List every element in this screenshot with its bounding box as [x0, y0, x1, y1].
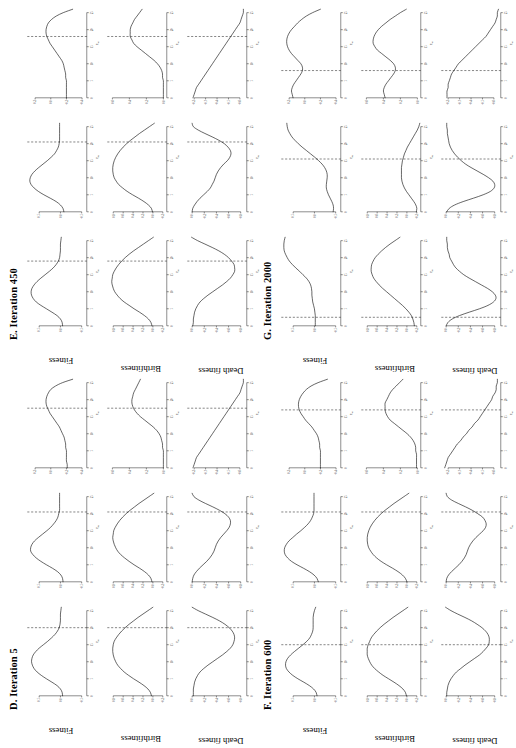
plot-cell-r1-c2: 0.50.0-0.50510152025z̄R2 — [276, 490, 354, 598]
svg-text:25: 25 — [90, 381, 94, 384]
svg-text:z̄R1: z̄R1 — [349, 268, 354, 273]
svg-text:-0.4: -0.4 — [80, 100, 84, 105]
svg-text:0.0: 0.0 — [151, 328, 155, 332]
svg-text:5: 5 — [504, 564, 508, 566]
svg-text:0: 0 — [504, 581, 508, 583]
plot-cell-r3-c3: -0.2-0.3-0.4-0.5-0.60510152025z̄N1 — [182, 6, 260, 114]
row-label-fitness: Fitness — [276, 348, 354, 374]
svg-text:0: 0 — [504, 325, 508, 327]
svg-text:20: 20 — [170, 626, 174, 629]
svg-text:-0.5: -0.5 — [481, 100, 485, 105]
svg-text:5: 5 — [90, 564, 94, 566]
svg-text:0.0: 0.0 — [58, 584, 62, 588]
plot-cell-r3-c1: 0.0-0.2-0.4-0.6-0.80510152025z̄R1 — [436, 604, 514, 712]
svg-text:15: 15 — [170, 415, 174, 418]
svg-text:20: 20 — [250, 398, 254, 401]
svg-text:15: 15 — [170, 643, 174, 646]
svg-text:0.6: 0.6 — [364, 100, 368, 104]
svg-text:25: 25 — [170, 381, 174, 384]
svg-text:20: 20 — [344, 512, 348, 515]
svg-text:z̄R1: z̄R1 — [349, 638, 354, 643]
svg-text:10: 10 — [424, 290, 428, 293]
svg-text:15: 15 — [250, 273, 254, 276]
svg-text:0.5: 0.5 — [37, 214, 41, 218]
svg-text:20: 20 — [170, 398, 174, 401]
svg-text:0.4: 0.4 — [127, 100, 131, 104]
svg-text:5: 5 — [344, 678, 348, 680]
row-label-birthfitness: Birthfitness — [102, 718, 180, 744]
svg-text:20: 20 — [344, 626, 348, 629]
svg-text:0.2: 0.2 — [141, 698, 145, 702]
svg-text:25: 25 — [344, 609, 348, 612]
svg-text:25: 25 — [90, 125, 94, 128]
svg-text:15: 15 — [250, 529, 254, 532]
svg-text:15: 15 — [424, 45, 428, 48]
svg-text:5: 5 — [170, 80, 174, 82]
plot-cell-r2-c3: 0.60.40.20.00510152025z̄N1 — [356, 376, 434, 484]
svg-text:-0.5: -0.5 — [80, 214, 84, 219]
plot-cell-r2-c3: 0.60.40.20.00510152025z̄N1 — [356, 6, 434, 114]
svg-text:0.2: 0.2 — [33, 100, 37, 104]
svg-text:-0.5: -0.5 — [227, 470, 231, 475]
row-label-fitness: Fitness — [22, 718, 100, 744]
svg-text:20: 20 — [344, 256, 348, 259]
panel-plot-grid: Fitness0.50.0-0.50510152025z̄R10.50.0-0.… — [276, 376, 514, 744]
svg-text:0: 0 — [424, 581, 428, 583]
svg-text:-0.2: -0.2 — [415, 584, 419, 589]
svg-text:0.5: 0.5 — [291, 328, 295, 332]
svg-text:-0.2: -0.2 — [415, 698, 419, 703]
svg-text:-0.3: -0.3 — [458, 100, 462, 105]
svg-text:0: 0 — [344, 325, 348, 327]
svg-text:0.4: 0.4 — [131, 328, 135, 332]
svg-text:0.0: 0.0 — [190, 328, 194, 332]
svg-text:25: 25 — [424, 381, 428, 384]
svg-text:z̄R1: z̄R1 — [509, 268, 514, 273]
svg-text:25: 25 — [170, 609, 174, 612]
svg-text:0.0: 0.0 — [58, 698, 62, 702]
svg-text:15: 15 — [250, 415, 254, 418]
svg-text:25: 25 — [344, 11, 348, 14]
svg-text:-0.4: -0.4 — [469, 100, 473, 105]
svg-text:15: 15 — [344, 529, 348, 532]
svg-text:5: 5 — [504, 194, 508, 196]
svg-text:20: 20 — [250, 256, 254, 259]
svg-text:0.8: 0.8 — [111, 698, 115, 702]
svg-text:20: 20 — [170, 142, 174, 145]
svg-text:z̄R2: z̄R2 — [95, 154, 100, 159]
svg-text:5: 5 — [250, 564, 254, 566]
svg-text:25: 25 — [344, 381, 348, 384]
svg-text:-0.2: -0.2 — [318, 100, 322, 105]
svg-text:5: 5 — [344, 450, 348, 452]
svg-text:z̄N1: z̄N1 — [175, 40, 180, 46]
svg-text:10: 10 — [90, 660, 94, 663]
svg-text:5: 5 — [90, 80, 94, 82]
svg-text:0: 0 — [344, 211, 348, 213]
svg-text:-0.6: -0.6 — [481, 214, 485, 219]
svg-text:0: 0 — [90, 325, 94, 327]
svg-text:-0.5: -0.5 — [481, 470, 485, 475]
svg-text:0.8: 0.8 — [111, 584, 115, 588]
svg-text:0: 0 — [170, 581, 174, 583]
svg-text:-0.6: -0.6 — [227, 698, 231, 703]
svg-text:10: 10 — [170, 62, 174, 65]
plot-cell-r2-c1: 0.80.60.40.20.0-0.20510152025z̄R1 — [356, 234, 434, 342]
svg-text:0.6: 0.6 — [375, 214, 379, 218]
svg-text:0.0: 0.0 — [190, 698, 194, 702]
svg-text:15: 15 — [90, 45, 94, 48]
svg-text:0.0: 0.0 — [49, 470, 53, 474]
svg-text:15: 15 — [250, 45, 254, 48]
svg-text:0.5: 0.5 — [37, 584, 41, 588]
svg-text:10: 10 — [90, 432, 94, 435]
svg-text:-0.2: -0.2 — [192, 100, 196, 105]
svg-text:0.2: 0.2 — [395, 698, 399, 702]
svg-text:-0.6: -0.6 — [227, 328, 231, 333]
svg-text:5: 5 — [504, 308, 508, 310]
svg-text:0: 0 — [170, 325, 174, 327]
svg-text:z̄R1: z̄R1 — [175, 638, 180, 643]
svg-text:-0.2: -0.2 — [161, 584, 165, 589]
svg-text:20: 20 — [170, 28, 174, 31]
svg-text:z̄N1: z̄N1 — [429, 40, 434, 46]
svg-text:0.0: 0.0 — [405, 214, 409, 218]
svg-text:25: 25 — [424, 125, 428, 128]
svg-text:0: 0 — [90, 467, 94, 469]
